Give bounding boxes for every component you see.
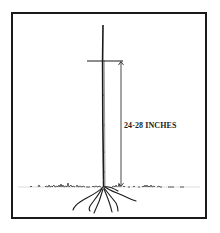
seedling-illustration	[0, 0, 220, 233]
measurement-label: 24-28 INCHES	[124, 121, 177, 130]
roots	[73, 187, 136, 213]
ground-line	[18, 183, 200, 187]
measurement-arrow	[119, 62, 124, 187]
seedling-stem	[102, 25, 105, 187]
